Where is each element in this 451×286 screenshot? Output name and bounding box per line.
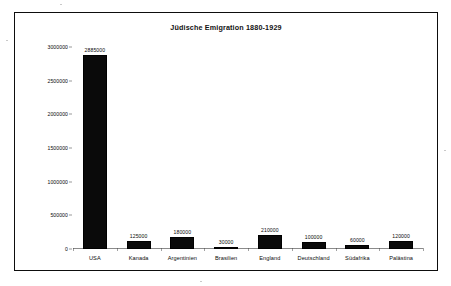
x-axis-tick-mark	[117, 248, 118, 251]
bar-slot: 180000Argentinien	[161, 47, 205, 249]
y-axis-tick-label: 2000000	[47, 111, 68, 117]
x-axis-tick-mark	[204, 248, 205, 251]
x-axis-tick-mark	[161, 248, 162, 251]
bar-value-label: 2885000	[85, 47, 106, 53]
y-axis-tick-label: 1500000	[47, 145, 68, 151]
x-axis-category-label: USA	[89, 255, 101, 261]
bar[interactable]	[258, 235, 282, 249]
bar-value-label: 210000	[261, 227, 279, 233]
scan-speckle	[200, 281, 202, 282]
y-axis-tick-label: 0	[65, 246, 68, 252]
scanned-page: Jüdische Emigration 1880-1929 0500000100…	[0, 0, 451, 286]
plot-area: 0500000100000015000002000000250000030000…	[73, 47, 423, 249]
bar[interactable]	[389, 241, 413, 249]
bar-value-label: 180000	[174, 229, 192, 235]
y-axis-tick-mark	[69, 181, 72, 182]
y-axis-tick-mark	[69, 114, 72, 115]
x-axis-category-label: Argentinien	[168, 255, 197, 261]
bar-slot: 120000Palästina	[379, 47, 423, 249]
y-axis-tick-mark	[69, 249, 72, 250]
bar-slot: 60000Südafrika	[336, 47, 380, 249]
bar-value-label: 125000	[130, 233, 148, 239]
y-axis-tick-label: 1000000	[47, 179, 68, 185]
bar-slot: 30000Brasilien	[204, 47, 248, 249]
x-axis-category-label: Brasilien	[215, 255, 237, 261]
y-axis-tick-label: 3000000	[47, 44, 68, 50]
y-axis-tick-label: 2500000	[47, 78, 68, 84]
bar-value-label: 100000	[305, 234, 323, 240]
scan-speckle	[444, 150, 446, 151]
bar-slot: 125000Kanada	[117, 47, 161, 249]
chart-frame: Jüdische Emigration 1880-1929 0500000100…	[14, 12, 438, 271]
bar[interactable]	[345, 245, 369, 249]
bar[interactable]	[127, 241, 151, 249]
x-axis-tick-mark	[379, 248, 380, 251]
bar-slot: 2885000USA	[73, 47, 117, 249]
bar[interactable]	[302, 242, 326, 249]
bar-value-label: 60000	[350, 237, 365, 243]
x-axis-category-label: Südafrika	[345, 255, 370, 261]
y-axis-tick-mark	[69, 215, 72, 216]
scan-speckle	[6, 40, 8, 41]
x-axis-tick-mark	[423, 248, 424, 251]
x-axis-tick-mark	[292, 248, 293, 251]
y-axis-tick-label: 500000	[50, 212, 68, 218]
bar-value-label: 120000	[392, 233, 410, 239]
bar-value-label: 30000	[219, 239, 234, 245]
bar-slot: 100000Deutschland	[292, 47, 336, 249]
x-axis-category-label: England	[259, 255, 280, 261]
y-axis-tick-mark	[69, 80, 72, 81]
y-axis-tick-mark	[69, 148, 72, 149]
x-axis-category-label: Deutschland	[298, 255, 330, 261]
bar[interactable]	[83, 55, 107, 249]
x-axis-tick-mark	[73, 248, 74, 251]
x-axis-category-label: Kanada	[129, 255, 149, 261]
bar[interactable]	[214, 247, 238, 249]
x-axis-tick-mark	[336, 248, 337, 251]
bar-slot: 210000England	[248, 47, 292, 249]
chart-title: Jüdische Emigration 1880-1929	[15, 23, 437, 32]
x-axis-category-label: Palästina	[389, 255, 413, 261]
scan-speckle	[60, 4, 62, 5]
y-axis-tick-mark	[69, 47, 72, 48]
bar[interactable]	[170, 237, 194, 249]
x-axis-tick-mark	[248, 248, 249, 251]
